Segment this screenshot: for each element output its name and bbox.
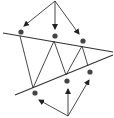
upper-line — [3, 33, 113, 52]
arrow-bottom-1 — [39, 100, 68, 116]
upper-dot-1 — [18, 29, 23, 34]
zigzag-path — [20, 36, 88, 88]
zigzag-line — [20, 36, 88, 88]
lower-dot-2 — [64, 78, 69, 83]
boundary-lines — [3, 33, 113, 95]
triangle-arrow-diagram — [0, 0, 114, 118]
arrow-top-1 — [24, 1, 55, 26]
arrows — [24, 1, 89, 116]
upper-dot-2 — [52, 33, 57, 38]
arrow-top-3 — [55, 1, 79, 34]
dots — [18, 29, 92, 95]
lower-dot-1 — [32, 90, 37, 95]
arrow-bottom-3 — [68, 80, 89, 116]
diagram-canvas — [0, 0, 114, 118]
lower-dot-3 — [87, 69, 92, 74]
upper-dot-3 — [80, 38, 85, 43]
